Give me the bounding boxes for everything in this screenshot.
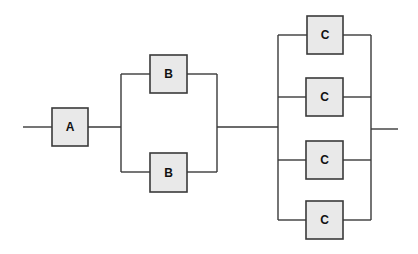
block-c-4: C <box>306 201 343 239</box>
block-c-1-label: C <box>321 28 330 42</box>
block-b-bottom: B <box>150 153 187 192</box>
block-c-4-label: C <box>320 213 329 227</box>
block-a-label: A <box>66 120 75 134</box>
reliability-block-diagram: A B B C C C C <box>0 0 418 254</box>
block-a: A <box>52 108 88 146</box>
block-b-top: B <box>150 55 187 93</box>
block-c-2-label: C <box>320 90 329 104</box>
block-c-1: C <box>307 16 343 54</box>
block-b-bottom-label: B <box>164 166 173 180</box>
block-c-3: C <box>306 141 343 179</box>
block-b-top-label: B <box>164 67 173 81</box>
block-c-3-label: C <box>320 153 329 167</box>
block-c-2: C <box>306 78 343 116</box>
